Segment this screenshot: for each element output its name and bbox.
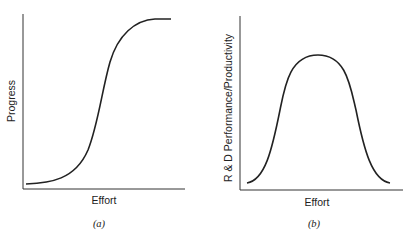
s-curve	[26, 19, 171, 184]
x-axis-label: Effort	[92, 194, 117, 206]
y-axis-label: Progress	[5, 80, 17, 122]
figure: Progress Effort (a) R & D Performance/Pr…	[0, 0, 416, 237]
panel-caption: (a)	[93, 218, 106, 230]
bell-curve	[247, 55, 390, 183]
panel-caption: (b)	[308, 218, 321, 230]
x-axis-label: Effort	[305, 196, 330, 208]
panel-b: R & D Performance/Productivity Effort (b…	[222, 16, 403, 230]
y-axis-label: R & D Performance/Productivity	[222, 33, 234, 182]
panel-a: Progress Effort (a)	[5, 14, 185, 230]
